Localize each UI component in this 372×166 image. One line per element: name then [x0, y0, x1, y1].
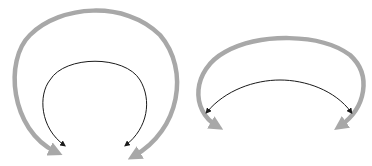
left-outer-curved-arrow	[15, 11, 177, 156]
left-arc-group	[15, 11, 177, 156]
right-arc-group	[198, 38, 363, 126]
right-outer-curved-arrow	[198, 38, 363, 126]
diagram-canvas	[0, 0, 372, 166]
left-inner-curved-arrow	[43, 61, 147, 145]
right-inner-curved-arrow	[207, 80, 351, 112]
